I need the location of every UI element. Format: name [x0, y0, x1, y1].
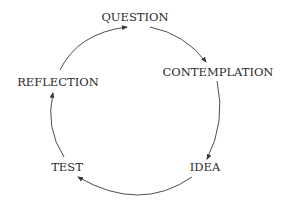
cycle-diagram: QUESTION CONTEMPLATION IDEA TEST REFLECT…	[0, 0, 287, 206]
node-reflection: REFLECTION	[17, 75, 99, 89]
node-idea: IDEA	[190, 160, 221, 174]
arrow-contemplation-to-idea	[207, 81, 220, 159]
node-contemplation: CONTEMPLATION	[163, 65, 274, 79]
arrow-test-to-reflection	[51, 93, 64, 157]
arrow-idea-to-test	[78, 177, 192, 195]
arrow-reflection-to-question	[60, 27, 127, 70]
node-question: QUESTION	[101, 10, 168, 24]
arrow-question-to-contemplation	[150, 27, 206, 62]
node-test: TEST	[51, 160, 83, 174]
